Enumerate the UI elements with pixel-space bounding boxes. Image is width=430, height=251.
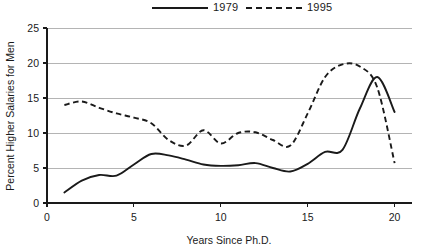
y-axis-tick-labels: 0510152025 bbox=[27, 22, 39, 209]
x-tick-label: 20 bbox=[389, 211, 401, 223]
series-line-1979 bbox=[64, 77, 394, 193]
y-tick-label: 25 bbox=[27, 22, 39, 34]
series-line-1995 bbox=[64, 63, 394, 163]
x-tick-label: 0 bbox=[44, 211, 50, 223]
chart-plot-area: 0510152025 05101520 Percent Higher Salar… bbox=[0, 0, 430, 251]
y-tick-label: 0 bbox=[33, 197, 39, 209]
y-axis-title: Percent Higher Salaries for Men bbox=[4, 41, 16, 191]
y-tick-label: 20 bbox=[27, 57, 39, 69]
chart-figure: 1979 1995 0510152025 05101520 Percent Hi… bbox=[0, 0, 430, 251]
x-tick-label: 5 bbox=[131, 211, 137, 223]
gridlines bbox=[47, 28, 412, 168]
x-tick-label: 15 bbox=[302, 211, 314, 223]
x-axis-title: Years Since Ph.D. bbox=[187, 234, 272, 246]
y-tick-label: 15 bbox=[27, 92, 39, 104]
axis-ticks bbox=[43, 28, 395, 207]
x-axis-tick-labels: 05101520 bbox=[44, 211, 401, 223]
x-tick-label: 10 bbox=[215, 211, 227, 223]
y-tick-label: 10 bbox=[27, 127, 39, 139]
y-tick-label: 5 bbox=[33, 162, 39, 174]
